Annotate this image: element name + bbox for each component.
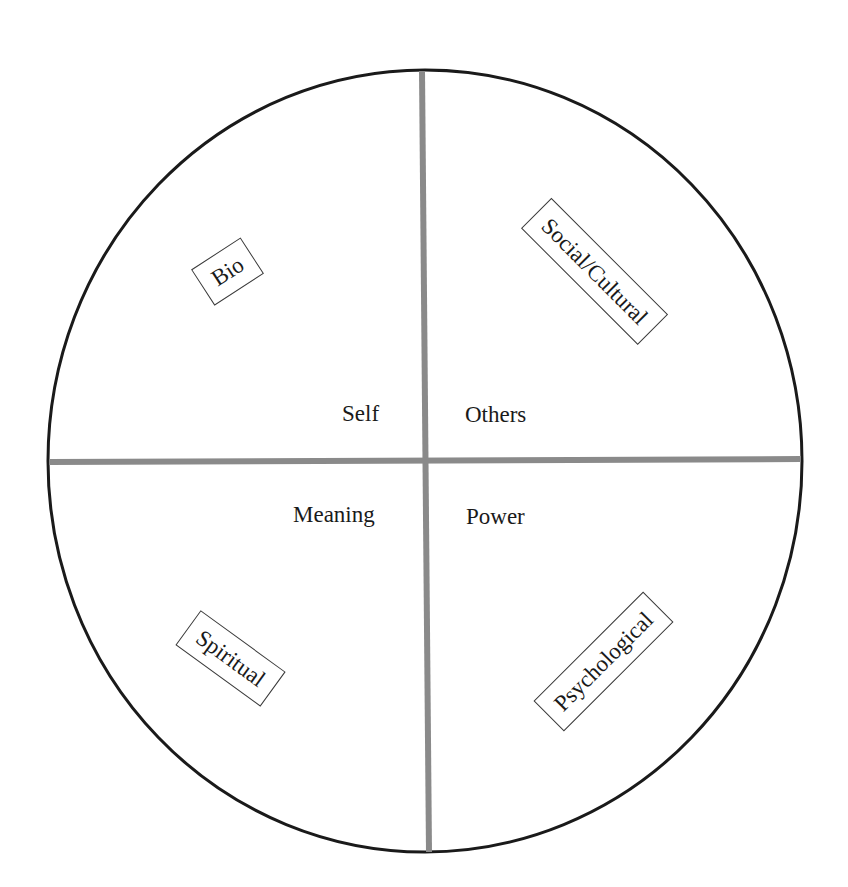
label-others: Others [465, 403, 526, 426]
label-meaning: Meaning [293, 503, 375, 526]
label-self: Self [342, 402, 379, 425]
horizontal-divider [49, 459, 801, 462]
label-power: Power [466, 505, 525, 528]
quadrant-diagram: Self Others Meaning Power Bio Social/Cul… [0, 0, 848, 887]
circle-and-dividers [0, 0, 848, 887]
